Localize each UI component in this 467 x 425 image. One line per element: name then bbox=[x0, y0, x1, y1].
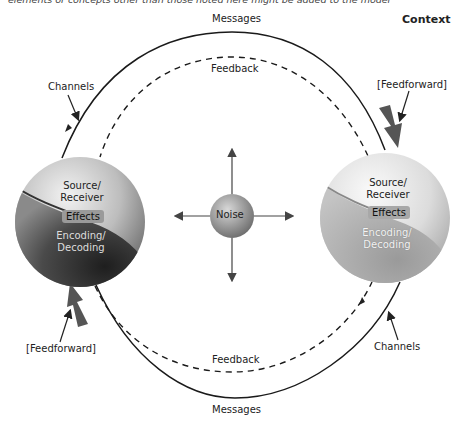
right-effects-label: Effects bbox=[368, 206, 410, 219]
channels-left-pointer bbox=[68, 95, 78, 119]
right-decoding-text: Decoding bbox=[354, 239, 420, 251]
feedforward-arrow-left-icon bbox=[67, 283, 88, 327]
right-encoding-text: Encoding/ bbox=[354, 227, 420, 239]
feedback-top-label: Feedback bbox=[211, 63, 259, 74]
channels-right-label: Channels bbox=[374, 341, 420, 352]
left-source-receiver-label: Source/ Receiver bbox=[50, 180, 114, 204]
left-encoding-decoding-label: Encoding/ Decoding bbox=[48, 230, 114, 254]
channels-right-pointer bbox=[389, 313, 398, 340]
feedforward-right-label: [Feedforward] bbox=[377, 79, 447, 90]
feedforward-left-pointer bbox=[60, 311, 70, 342]
left-sphere bbox=[0, 157, 150, 300]
feedback-arrow-right-icon bbox=[359, 297, 365, 305]
feedback-arrow-left-icon bbox=[65, 124, 72, 132]
feedforward-left-label: [Feedforward] bbox=[26, 343, 96, 354]
right-source-receiver-label: Source/ Receiver bbox=[356, 177, 420, 201]
channel-line-top bbox=[62, 32, 385, 158]
left-encoding-text: Encoding/ bbox=[48, 230, 114, 242]
messages-bottom-label: Messages bbox=[212, 404, 261, 415]
right-encoding-decoding-label: Encoding/ Decoding bbox=[354, 227, 420, 251]
left-effects-label: Effects bbox=[62, 210, 104, 223]
left-decoding-text: Decoding bbox=[48, 242, 114, 254]
left-source-text: Source/ bbox=[50, 180, 114, 192]
channels-left-label: Channels bbox=[48, 81, 94, 92]
right-receiver-text: Receiver bbox=[356, 189, 420, 201]
messages-top-label: Messages bbox=[212, 13, 261, 24]
feedforward-right-pointer bbox=[400, 91, 409, 120]
feedback-bottom-label: Feedback bbox=[212, 354, 260, 365]
noise-label: Noise bbox=[216, 209, 244, 220]
left-receiver-text: Receiver bbox=[50, 192, 114, 204]
right-source-text: Source/ bbox=[356, 177, 420, 189]
channel-line-bottom bbox=[96, 282, 400, 398]
